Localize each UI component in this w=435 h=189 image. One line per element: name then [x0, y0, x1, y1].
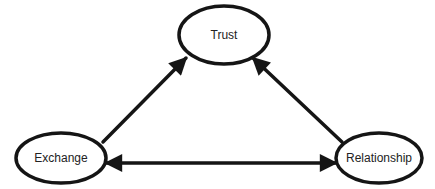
diagram-canvas: Trust Exchange Relationship	[0, 0, 435, 189]
edge-exchange-to-trust	[103, 58, 186, 142]
node-exchange: Exchange	[16, 133, 106, 183]
node-exchange-label: Exchange	[34, 151, 88, 165]
node-trust-label: Trust	[211, 28, 239, 42]
edge-relationship-to-trust	[253, 58, 342, 142]
node-trust: Trust	[179, 6, 269, 64]
node-relationship-label: Relationship	[346, 151, 412, 165]
node-relationship: Relationship	[336, 133, 422, 183]
